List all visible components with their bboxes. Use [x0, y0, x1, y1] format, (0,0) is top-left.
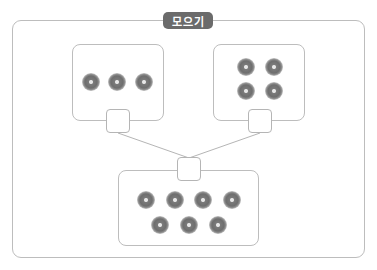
total-group-box — [118, 170, 259, 246]
coin-icon — [166, 191, 184, 209]
left-answer-box[interactable] — [106, 109, 130, 133]
coin-icon — [135, 73, 153, 91]
total-answer-box[interactable] — [177, 157, 201, 181]
coin-icon — [237, 58, 255, 76]
right-answer-box[interactable] — [248, 109, 272, 133]
coin-icon — [237, 82, 255, 100]
coin-icon — [223, 191, 241, 209]
coin-icon — [194, 191, 212, 209]
coin-icon — [265, 82, 283, 100]
coin-icon — [265, 58, 283, 76]
coin-icon — [151, 216, 169, 234]
coin-icon — [180, 216, 198, 234]
coin-icon — [137, 191, 155, 209]
coin-icon — [209, 216, 227, 234]
coin-icon — [108, 73, 126, 91]
coin-icon — [82, 73, 100, 91]
